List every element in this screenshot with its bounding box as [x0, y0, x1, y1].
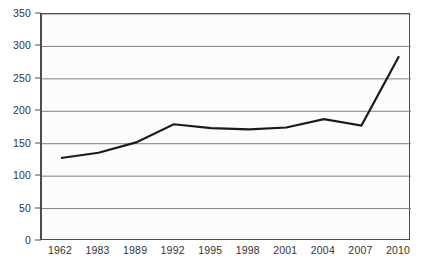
x-tick-label: 1989 — [123, 244, 147, 256]
y-tick-label: 150 — [13, 137, 31, 149]
x-tick-label: 1992 — [161, 244, 185, 256]
x-tick-label: 2007 — [348, 244, 372, 256]
x-tick-label: 2004 — [311, 244, 335, 256]
x-tick-label: 1998 — [236, 244, 260, 256]
y-tick-label: 100 — [13, 169, 31, 181]
x-tick-label: 1995 — [198, 244, 222, 256]
x-tick-label: 1962 — [48, 244, 72, 256]
y-tick-label: 250 — [13, 72, 31, 84]
plot-area — [41, 13, 410, 240]
line-chart: 050100150200250300350 196219831989199219… — [0, 0, 421, 261]
plot-svg — [42, 14, 411, 241]
x-tick-label: 1983 — [85, 244, 109, 256]
data-series-line — [61, 56, 399, 158]
y-tick-label: 200 — [13, 104, 31, 116]
x-axis: 1962198319891992199519982001200420072010 — [0, 240, 421, 261]
y-tick-label: 300 — [13, 39, 31, 51]
y-axis: 050100150200250300350 — [0, 0, 41, 261]
y-tick-label: 350 — [13, 7, 31, 19]
x-tick-label: 2010 — [386, 244, 410, 256]
gridlines — [42, 14, 411, 209]
x-tick-label: 2001 — [273, 244, 297, 256]
y-tick-label: 50 — [19, 202, 31, 214]
